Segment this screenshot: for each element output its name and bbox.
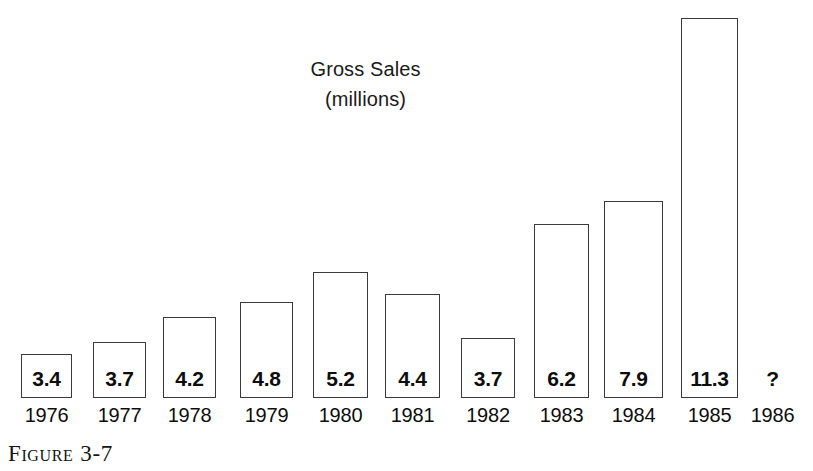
bar-group: 11.3 [681,0,738,398]
bar-value-label: 7.9 [604,368,663,389]
bar-group: 3.7 [93,0,146,398]
bar-group: 3.7 [461,0,515,398]
year-label: 1977 [85,404,154,426]
bar-group: 3.4 [21,0,72,398]
bar-value-label: ? [750,368,795,389]
year-label: 1976 [13,404,80,426]
bar-value-label: 4.8 [240,368,293,389]
bar-group: ? [750,0,795,398]
bar-value-label: 3.7 [93,368,146,389]
figure-3-7: Gross Sales (millions) 3.43.74.24.85.24.… [0,0,813,471]
bar-group: 4.4 [385,0,440,398]
bar-value-label: 3.7 [461,368,515,389]
year-label: 1985 [673,404,746,426]
bar-group: 6.2 [534,0,589,398]
year-label: 1984 [596,404,671,426]
figure-caption-word: Figure [8,441,73,466]
year-label: 1980 [305,404,376,426]
bar-value-label: 6.2 [534,368,589,389]
category-axis: 1976197719781979198019811982198319841985… [0,400,813,432]
bar-group: 7.9 [604,0,663,398]
year-label: 1981 [377,404,448,426]
figure-caption: Figure3-7 [8,441,113,467]
year-label: 1978 [155,404,224,426]
year-label: 1983 [526,404,597,426]
bar [681,18,738,398]
figure-caption-number: 3-7 [80,441,112,466]
year-label: 1979 [232,404,301,426]
bar-group: 4.8 [240,0,293,398]
bar-value-label: 11.3 [681,368,738,389]
year-label: 1982 [453,404,523,426]
bar-value-label: 5.2 [313,368,368,389]
bar-group: 5.2 [313,0,368,398]
bar-group: 4.2 [163,0,216,398]
bar-value-label: 4.4 [385,368,440,389]
bar-chart-plot-area: 3.43.74.24.85.24.43.76.27.911.3? [0,0,813,400]
bar-value-label: 4.2 [163,368,216,389]
year-label: 1986 [742,404,803,426]
bar-value-label: 3.4 [21,368,72,389]
